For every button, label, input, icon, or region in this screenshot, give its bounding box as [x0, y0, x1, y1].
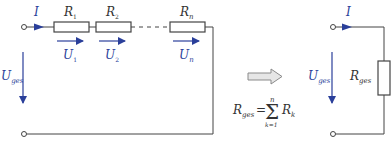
equivalence: Rges = Σ n k=1 Rk [232, 69, 295, 128]
series-resistor-diagram: I R1 R2 Rn U1 U2 Un Uges Rges = Σ n k=1 … [0, 0, 392, 142]
sum-upper-limit: n [270, 96, 275, 104]
voltage-un-label: Un [179, 48, 194, 64]
current-arrow-icon [342, 24, 352, 31]
equivalent-circuit: I Uges Rges [308, 5, 390, 137]
resistor-r1 [54, 22, 89, 32]
sum-lower-limit: k=1 [265, 121, 277, 128]
current-label: I [33, 5, 39, 19]
top-terminal [22, 25, 27, 30]
resistor-r2-label: R2 [105, 5, 119, 20]
bottom-terminal [22, 132, 27, 137]
total-voltage-label: Uges [1, 69, 24, 85]
resistor-rges [378, 61, 390, 95]
current-arrow-icon [34, 24, 44, 31]
right-block-arrow-icon [248, 69, 282, 84]
resistor-r1-label: R1 [63, 5, 77, 20]
current-label: I [345, 5, 351, 19]
resistor-rges-label: Rges [349, 69, 372, 85]
series-circuit: I R1 R2 Rn U1 U2 Un Uges [1, 5, 213, 137]
bottom-terminal [331, 132, 336, 137]
return-wire [27, 27, 214, 134]
top-terminal [331, 25, 336, 30]
total-voltage-label: Uges [308, 69, 331, 85]
voltage-u1-label: U1 [63, 48, 77, 63]
formula-rhs: Rk [281, 103, 295, 119]
wire [336, 27, 385, 61]
voltage-u2-label: U2 [105, 48, 119, 63]
resistor-r2 [96, 22, 131, 32]
return-wire [336, 95, 385, 134]
resistor-rn [170, 22, 205, 32]
sum-formula: Rges = Σ n k=1 Rk [232, 96, 295, 128]
resistor-rn-label: Rn [179, 5, 194, 21]
formula-lhs: Rges [232, 103, 255, 119]
